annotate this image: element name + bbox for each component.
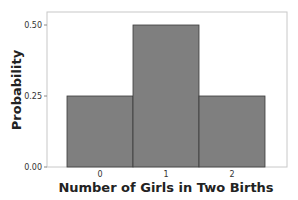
bar-0 (67, 96, 133, 167)
x-axis-label: Number of Girls in Two Births (58, 180, 273, 195)
x-tick-label: 2 (229, 170, 234, 179)
y-tick-label: 0.50 (24, 21, 42, 30)
y-tick-label: 0.25 (24, 92, 42, 101)
y-tick-label: 0.00 (24, 163, 42, 172)
y-axis-label: Probability (9, 49, 24, 130)
bar-1 (133, 25, 199, 167)
bar-2 (199, 96, 265, 167)
x-tick-label: 0 (97, 170, 102, 179)
probability-bar-chart: 0.000.250.50 012 Probability Number of G… (0, 0, 298, 200)
y-axis-ticks: 0.000.250.50 (24, 21, 47, 172)
x-axis-ticks: 012 (97, 170, 234, 179)
x-tick-label: 1 (163, 170, 168, 179)
